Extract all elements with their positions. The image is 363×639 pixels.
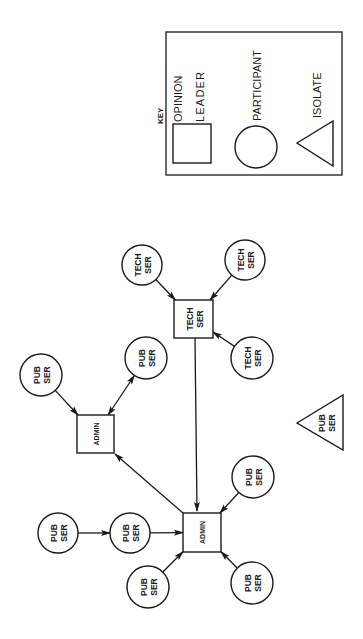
node-label-line2: SER [59, 524, 69, 541]
legend: KEY OPINION LEADER PARTICIPANT ISOLATE [156, 32, 342, 175]
node-label-line2: SER [254, 468, 264, 485]
legend-triangle-icon [297, 121, 333, 166]
node-label-line1: PUB [121, 524, 131, 542]
legend-label-participant: PARTICIPANT [251, 50, 263, 121]
legend-square-icon [173, 124, 211, 163]
node-label: ADMIN [93, 423, 100, 446]
legend-circle-icon [235, 126, 277, 168]
node-pub-5: PUBSER [127, 566, 169, 608]
node-label-line1: PUB [244, 468, 254, 486]
edge-pub-7-to-admin-bottom [220, 492, 239, 513]
node-pub-isolate: PUBSER [297, 395, 343, 450]
node-tech-2: TECHSER [225, 240, 265, 280]
node-label-line1: TECH [236, 248, 246, 271]
node-label-line1: TECH [243, 346, 253, 369]
network-diagram: TECHSERTECHSERTECHSERTECHSERADMINPUBSERP… [0, 0, 363, 639]
edge-admin-bottom-to-admin-top [115, 454, 183, 513]
node-label-line1: PUB [49, 524, 59, 542]
node-admin-bottom: ADMIN [183, 513, 221, 552]
node-admin-top: ADMIN [77, 415, 114, 453]
legend-label-leader: LEADER [194, 71, 206, 122]
edge-tech-2-to-tech-leader [210, 275, 232, 300]
node-label-line2: SER [327, 414, 337, 431]
node-label-line1: PUB [139, 578, 149, 596]
node-label-line2: SER [149, 578, 159, 595]
edge-tech-leader-to-admin-bottom [195, 338, 197, 511]
node-pub-1: PUBSER [20, 354, 62, 396]
node-label: ADMIN [199, 521, 206, 544]
node-label-line2: SER [147, 349, 157, 366]
node-label-line1: PUB [137, 349, 147, 367]
node-tech-3: TECHSER [231, 337, 273, 379]
node-pub-3: PUBSER [38, 513, 78, 553]
node-label-line1: PUB [32, 366, 42, 384]
edge-pub-5-to-admin-bottom [163, 552, 183, 572]
node-pub-2: PUBSER [125, 337, 167, 379]
node-label-line2: SER [143, 256, 153, 273]
node-label-line1: TECH [185, 307, 195, 330]
node-tech-leader: TECHSER [174, 300, 213, 338]
node-pub-7: PUBSER [232, 456, 274, 498]
node-pub-6: PUBSER [231, 562, 273, 604]
edge-pub-6-to-admin-bottom [221, 552, 237, 568]
node-pub-4: PUBSER [110, 513, 150, 553]
node-label-line2: SER [195, 310, 205, 327]
node-label-line1: TECH [133, 253, 143, 276]
node-label-line2: SER [42, 366, 52, 383]
legend-label-opinion: OPINION [172, 75, 184, 122]
legend-label-isolate: ISOLATE [311, 72, 323, 118]
edge-pub-1-to-admin-top [55, 390, 78, 415]
edge-tech-1-to-tech-leader [156, 279, 176, 300]
node-tech-1: TECHSER [122, 245, 162, 285]
edge-tech-3-to-tech-leader [213, 332, 235, 346]
node-label-line2: SER [253, 574, 263, 591]
node-label-line1: PUB [243, 574, 253, 592]
node-label-line2: SER [131, 524, 141, 541]
edge-pub-2-to-admin-top [108, 375, 134, 415]
node-label-line2: SER [246, 251, 256, 268]
node-label-line1: PUB [317, 414, 327, 432]
legend-title: KEY [156, 107, 165, 124]
node-label-line2: SER [253, 349, 263, 366]
